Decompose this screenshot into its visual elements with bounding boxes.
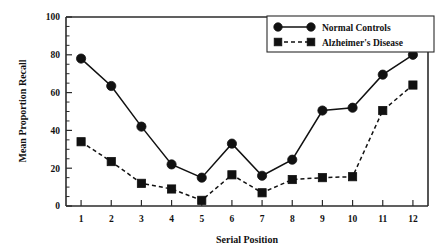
x-tick-label: 9 [320, 214, 325, 224]
data-point-marker [318, 174, 326, 182]
y-tick-label: 0 [55, 201, 60, 211]
data-point-marker [288, 155, 297, 164]
x-tick-label: 1 [79, 214, 84, 224]
data-point-marker [107, 81, 116, 90]
data-point-marker [379, 106, 387, 114]
serial-position-line-chart: 020406080100 123456789101112 Mean Propor… [0, 0, 441, 251]
chart-legend: Normal Controls Alzheimer's Disease [267, 16, 434, 52]
x-tick-label: 3 [139, 214, 144, 224]
data-point-marker [167, 160, 176, 169]
data-point-marker [228, 171, 236, 179]
x-tick-label: 5 [199, 214, 204, 224]
chart-figure: 020406080100 123456789101112 Mean Propor… [0, 0, 441, 251]
x-tick-label: 7 [260, 214, 265, 224]
legend-circle-marker-right [307, 23, 315, 31]
y-tick-label: 40 [51, 126, 61, 136]
data-point-marker [76, 54, 85, 63]
legend-square-marker-right [307, 38, 315, 46]
y-tick-label: 80 [51, 50, 61, 60]
data-point-marker [348, 173, 356, 181]
x-axis-title: Serial Position [216, 234, 278, 245]
data-series-layer [76, 50, 417, 204]
data-point-marker [258, 189, 266, 197]
data-point-marker [137, 179, 145, 187]
legend-circle-marker-left [274, 23, 282, 31]
data-point-marker [348, 103, 357, 112]
legend-label-normal-controls: Normal Controls [322, 23, 391, 33]
data-point-marker [137, 122, 146, 131]
x-tick-label: 12 [408, 214, 418, 224]
x-axis-tick-labels: 123456789101112 [79, 214, 418, 224]
x-axis-ticks [81, 200, 413, 206]
x-tick-label: 6 [230, 214, 235, 224]
data-point-marker [257, 171, 266, 180]
x-tick-label: 2 [109, 214, 114, 224]
series-line [81, 55, 413, 178]
data-point-marker [288, 175, 296, 183]
data-point-marker [227, 139, 236, 148]
data-point-marker [77, 138, 85, 146]
data-point-marker [197, 173, 206, 182]
series-normal-controls [76, 50, 417, 182]
series-line [81, 85, 413, 200]
y-tick-label: 60 [51, 88, 61, 98]
legend-square-marker-left [274, 38, 282, 46]
data-point-marker [318, 106, 327, 115]
data-point-marker [167, 185, 175, 193]
data-point-marker [378, 70, 387, 79]
y-axis-title: Mean Proportion Recall [17, 59, 28, 162]
x-tick-label: 11 [378, 214, 387, 224]
y-axis-tick-labels: 020406080100 [46, 12, 61, 211]
x-tick-label: 10 [348, 214, 358, 224]
y-tick-label: 20 [51, 164, 61, 174]
series-alzheimer-s-disease [77, 81, 417, 204]
legend-label-alzheimers-disease: Alzheimer's Disease [322, 38, 403, 48]
data-point-marker [107, 157, 115, 165]
data-point-marker [409, 81, 417, 89]
data-point-marker [198, 196, 206, 204]
x-tick-label: 4 [169, 214, 174, 224]
x-tick-label: 8 [290, 214, 295, 224]
y-tick-label: 100 [46, 12, 61, 22]
